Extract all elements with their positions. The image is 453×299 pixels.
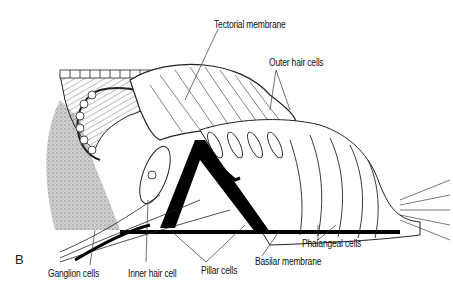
label-basilar-membrane: Basilar membrane: [255, 256, 321, 267]
label-inner-hair-cell: Inner hair cell: [128, 268, 176, 279]
label-outer-hair-cells: Outer hair cells: [269, 57, 323, 68]
organ-of-corti-diagram: B Tectorial membrane Outer hair cells Ga…: [0, 0, 453, 299]
diagram-drawing: [0, 0, 453, 299]
label-pillar-cells: Pillar cells: [201, 265, 237, 276]
inner-hair-cell: [133, 143, 176, 208]
label-tectorial-membrane: Tectorial membrane: [214, 19, 286, 30]
label-ganglion-cells: Ganglion cells: [48, 268, 99, 279]
label-phalangeal-cells: Phalangeal cells: [302, 238, 361, 249]
panel-letter: B: [15, 252, 24, 267]
